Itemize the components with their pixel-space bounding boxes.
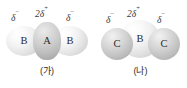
molecular-diagram-figure: δ− 2δ+ δ− B B A (가) δ− 2δ+ δ− B C C (나) bbox=[0, 0, 187, 88]
molecule-ga: δ− 2δ+ δ− B B A (가) bbox=[0, 0, 94, 88]
charge-sign: − bbox=[15, 8, 19, 15]
charge-sign: − bbox=[110, 10, 114, 17]
atom-sphere-a-center: A bbox=[33, 22, 61, 60]
atom-label: B bbox=[66, 36, 73, 47]
charge-label-center: 2δ+ bbox=[127, 4, 140, 20]
molecule-na: δ− 2δ+ δ− B C C (나) bbox=[94, 0, 187, 88]
charge-label-left: δ− bbox=[106, 10, 114, 26]
atom-label: B bbox=[20, 36, 27, 47]
charge-sign: + bbox=[136, 4, 140, 11]
charge-sign: − bbox=[70, 8, 74, 15]
atom-label: B bbox=[136, 34, 143, 45]
molecule-caption-na: (나) bbox=[94, 67, 187, 76]
molecule-caption-ga: (가) bbox=[0, 67, 94, 76]
charge-label-right: δ− bbox=[157, 10, 165, 26]
charge-sign: − bbox=[161, 10, 165, 17]
atom-sphere-c-left: C bbox=[101, 28, 133, 60]
atom-sphere-c-right: C bbox=[148, 28, 180, 60]
charge-sign: + bbox=[44, 4, 48, 11]
charge-label-left: δ− bbox=[11, 8, 19, 24]
atom-label: A bbox=[43, 36, 51, 47]
charge-label-right: δ− bbox=[66, 8, 74, 24]
atom-label: C bbox=[113, 39, 120, 50]
atom-label: C bbox=[160, 39, 167, 50]
charge-label-center: 2δ+ bbox=[35, 4, 48, 20]
